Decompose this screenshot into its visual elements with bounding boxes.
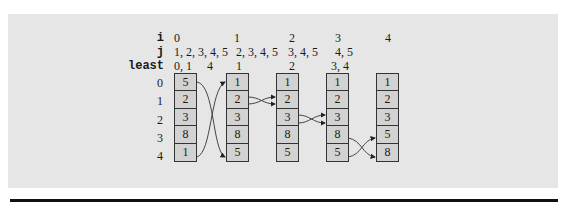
swap-arrow-icon bbox=[348, 138, 375, 157]
swap-arrow-icon bbox=[298, 115, 325, 123]
bottom-rule bbox=[10, 199, 558, 202]
swap-arrow-icon bbox=[197, 82, 225, 157]
swap-arrow-icon bbox=[248, 97, 275, 104]
swap-arrows bbox=[0, 0, 574, 205]
